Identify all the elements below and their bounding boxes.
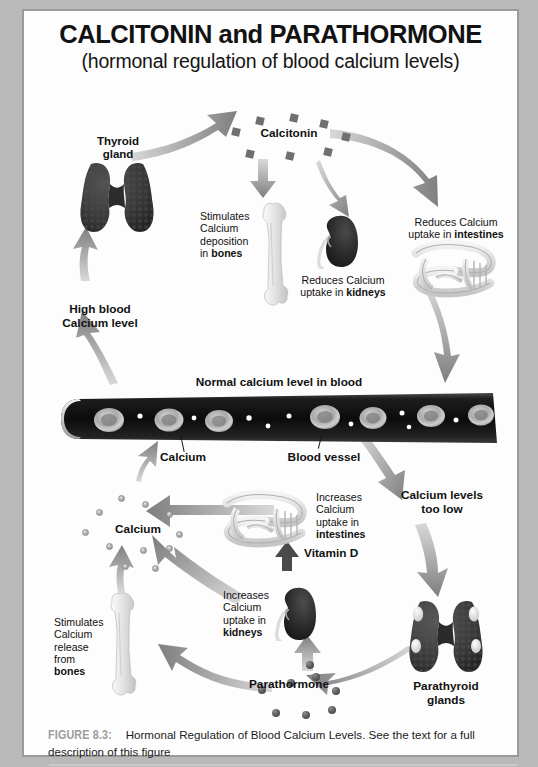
kidney-reduce-line2-prefix: uptake in — [300, 286, 346, 298]
blood-vessel-illustration — [57, 389, 500, 449]
intestines-increase-line4-bold: intestines — [316, 528, 365, 540]
bone-deposition-line1: Stimulates — [200, 210, 249, 222]
intestines-increase-line2: Calcium — [316, 503, 354, 515]
bone-illustration-lower — [108, 591, 138, 699]
bone-deposition-line4-bold: bones — [211, 247, 242, 259]
bone-deposition-line3: deposition — [200, 235, 248, 247]
high-blood-line2: Calcium level — [62, 316, 137, 330]
high-blood-calcium-label: High blood Calcium level — [42, 303, 158, 330]
too-low-line1: Calcium levels — [401, 488, 483, 502]
thyroid-label-line1: Thyroid — [97, 135, 139, 147]
bone-release-line1: Stimulates — [54, 616, 103, 628]
thyroid-gland-label: Thyroid gland — [70, 135, 166, 162]
kidney-increase-label: Increases Calcium uptake in kidneys — [223, 589, 279, 638]
bone-release-line4: from — [54, 653, 75, 665]
intestines-illustration-upper — [406, 239, 502, 303]
kidney-reduce-line1: Reduces Calcium — [301, 274, 384, 286]
bone-deposition-line2: Calcium — [200, 222, 238, 234]
intestines-reduce-label: Reduces Calcium uptake in intestines — [400, 216, 512, 241]
figure-caption: FIGURE 8.3: Hormonal Regulation of Blood… — [48, 727, 518, 759]
arrow-calcitonin-to-bone — [250, 159, 276, 198]
calcium-vessel-label: Calcium — [143, 451, 223, 465]
calcium-too-low-label: Calcium levels too low — [379, 489, 505, 516]
parathormone-label: Parathormone — [214, 678, 364, 692]
kidney-reduce-label: Reduces Calcium uptake in kidneys — [290, 274, 396, 299]
thyroid-gland-illustration — [77, 158, 157, 238]
intestines-increase-label: Increases Calcium uptake in intestines — [316, 491, 388, 540]
bone-release-line5-bold: bones — [54, 665, 85, 677]
vitamin-d-label: Vitamin D — [304, 547, 394, 561]
bone-deposition-line4-prefix: in — [200, 247, 211, 259]
bone-release-line2: Calcium — [54, 628, 92, 640]
intestines-reduce-line2-prefix: uptake in — [408, 228, 454, 240]
too-low-line2: too low — [421, 502, 462, 516]
arrow-too-low-to-parathyroid — [415, 523, 448, 597]
kidney-increase-line1: Increases — [223, 589, 269, 601]
kidney-illustration-lower — [274, 587, 318, 641]
intestines-increase-line1: Increases — [316, 491, 362, 503]
figure-page: CALCITONIN and PARATHORMONE (hormonal re… — [0, 0, 538, 767]
kidney-reduce-line2-bold: kidneys — [346, 286, 385, 298]
kidney-increase-line3: uptake in — [223, 614, 266, 626]
parathyroid-glands-label: Parathyroid glands — [398, 680, 494, 707]
arrow-calcitonin-to-kidney — [316, 160, 349, 217]
thyroid-label-line2: gland — [103, 148, 134, 160]
bone-release-line3: release — [54, 641, 89, 653]
figure-number: FIGURE 8.3: — [48, 727, 112, 744]
bone-deposition-label: Stimulates Calcium deposition in bones — [200, 210, 266, 259]
caption-line2: description of this figure — [48, 745, 170, 758]
intestines-increase-line3: uptake in — [316, 516, 359, 528]
kidney-illustration-upper — [317, 215, 359, 269]
blood-vessel-label: Blood vessel — [274, 451, 374, 465]
kidney-increase-line2: Calcium — [223, 601, 261, 613]
parathyroid-line1: Parathyroid — [413, 679, 479, 693]
intestines-illustration-lower — [217, 489, 313, 553]
intestines-reduce-line2-bold: intestines — [454, 228, 503, 240]
figure-frame: CALCITONIN and PARATHORMONE (hormonal re… — [22, 9, 519, 757]
calcitonin-label: Calcitonin — [228, 127, 350, 141]
intestines-reduce-line1: Reduces Calcium — [414, 216, 497, 228]
bone-release-label: Stimulates Calcium release from bones — [54, 616, 112, 677]
caption-text: FIGURE 8.3: Hormonal Regulation of Blood… — [48, 727, 518, 759]
caption-line1: Hormonal Regulation of Blood Calcium Lev… — [122, 728, 475, 741]
vessel-leader-dot — [316, 428, 320, 432]
caption-divider — [49, 764, 517, 766]
high-blood-line1: High blood — [69, 302, 131, 316]
calcium-pool-label: Calcium — [78, 523, 198, 537]
parathyroid-line2: glands — [427, 693, 465, 707]
parathyroid-gland-illustration — [406, 596, 486, 678]
kidney-increase-line4-bold: kidneys — [223, 626, 262, 638]
normal-calcium-level-label: Normal calcium level in blood — [154, 376, 404, 390]
